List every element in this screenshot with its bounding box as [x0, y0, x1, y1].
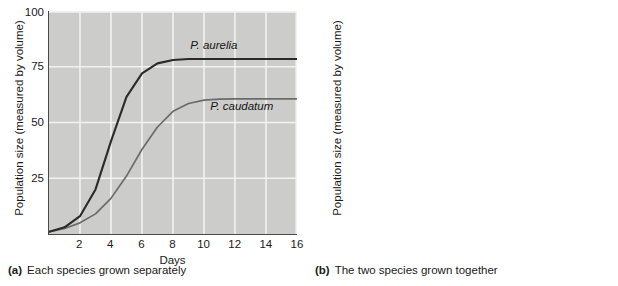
x-tick-label-a-8: 8 — [169, 239, 175, 251]
y-axis-title-b: Population size (measured by volume) — [331, 13, 343, 223]
gridlines-a — [49, 11, 297, 234]
caption-text-a: Each species grown separately — [27, 264, 186, 276]
x-tick-label-a-16: 16 — [291, 239, 304, 251]
figure-paramecium-competition: Population size (measured by volume) — [0, 0, 618, 286]
caption-marker-a: (a) — [8, 264, 22, 276]
x-tick-label-a-10: 10 — [197, 239, 210, 251]
series-label-p-aurelia-a: P. aurelia — [190, 39, 237, 51]
caption-a: (a)Each species grown separately — [8, 264, 186, 276]
y-tick-label-a-50: 50 — [31, 117, 44, 129]
series-label-p-caudatum-a: P. caudatum — [210, 100, 273, 112]
panel-b: Population size (measured by volume) — [309, 0, 618, 286]
x-tick-label-a-6: 6 — [138, 239, 144, 251]
y-tick-label-a-100: 100 — [25, 7, 44, 19]
plot-area-a: P. aurelia P. caudatum — [48, 11, 297, 235]
plot-svg-a — [49, 11, 297, 234]
y-tick-label-a-25: 25 — [31, 173, 44, 185]
x-tick-label-a-12: 12 — [228, 239, 241, 251]
panel-a: Population size (measured by volume) — [0, 0, 309, 286]
x-tick-label-a-14: 14 — [259, 239, 272, 251]
y-axis-title-a: Population size (measured by volume) — [13, 13, 25, 223]
plot-wrap-a: P. aurelia P. caudatum 100 75 50 25 2 4 … — [48, 11, 297, 235]
caption-marker-b: (b) — [315, 264, 330, 276]
caption-text-b: The two species grown together — [335, 264, 498, 276]
y-tick-label-a-75: 75 — [31, 61, 44, 73]
x-tick-label-a-4: 4 — [107, 239, 113, 251]
caption-b: (b)The two species grown together — [315, 264, 498, 276]
x-tick-label-a-2: 2 — [76, 239, 82, 251]
